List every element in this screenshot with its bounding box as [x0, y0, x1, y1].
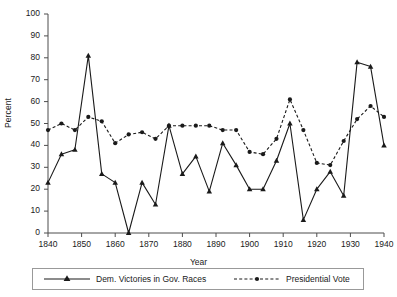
- x-tick-1840: 1840: [31, 239, 65, 249]
- x-tick-1930: 1930: [333, 239, 367, 249]
- x-tick-1850: 1850: [65, 239, 99, 249]
- y-tick-90: 90: [14, 30, 40, 40]
- data-point-1: [342, 139, 346, 143]
- data-point-1: [248, 150, 252, 154]
- data-point-0: [112, 180, 118, 185]
- data-point-0: [72, 147, 78, 152]
- data-point-1: [382, 115, 386, 119]
- data-point-0: [193, 153, 199, 158]
- data-point-1: [207, 124, 211, 128]
- y-tick-0: 0: [14, 227, 40, 237]
- x-axis-label: Year: [0, 257, 397, 267]
- series-line-0: [48, 56, 384, 233]
- x-tick-1880: 1880: [165, 239, 199, 249]
- data-point-1: [127, 132, 131, 136]
- legend-swatch-solid-triangle: [43, 272, 91, 286]
- x-tick-1940: 1940: [367, 239, 397, 249]
- chart-legend: Dem. Victories in Gov. Races Presidentia…: [32, 268, 364, 290]
- data-point-1: [315, 161, 319, 165]
- chart-figure: Percent Year 0102030405060708090100 1840…: [0, 0, 397, 297]
- y-tick-80: 80: [14, 52, 40, 62]
- data-point-1: [59, 121, 63, 125]
- data-point-1: [194, 124, 198, 128]
- legend-label-presidential-vote: Presidential Vote: [286, 274, 350, 284]
- y-tick-70: 70: [14, 74, 40, 84]
- data-point-1: [328, 163, 332, 167]
- data-point-1: [180, 124, 184, 128]
- data-point-0: [86, 53, 92, 58]
- x-tick-1860: 1860: [98, 239, 132, 249]
- data-point-0: [99, 171, 105, 176]
- data-point-0: [274, 158, 280, 163]
- x-tick-1920: 1920: [300, 239, 334, 249]
- x-tick-1910: 1910: [266, 239, 300, 249]
- x-tick-1900: 1900: [233, 239, 267, 249]
- y-tick-30: 30: [14, 161, 40, 171]
- legend-swatch-dashed-circle: [233, 272, 281, 286]
- y-tick-40: 40: [14, 139, 40, 149]
- data-point-1: [167, 124, 171, 128]
- y-tick-100: 100: [14, 8, 40, 18]
- x-tick-1870: 1870: [132, 239, 166, 249]
- data-point-0: [327, 169, 333, 174]
- data-point-0: [207, 188, 213, 193]
- y-tick-60: 60: [14, 96, 40, 106]
- data-point-1: [274, 137, 278, 141]
- data-point-1: [140, 130, 144, 134]
- legend-label-dem-victories: Dem. Victories in Gov. Races: [96, 274, 206, 284]
- data-point-1: [368, 104, 372, 108]
- data-point-1: [100, 119, 104, 123]
- data-point-1: [234, 128, 238, 132]
- data-point-0: [354, 59, 360, 64]
- y-tick-10: 10: [14, 205, 40, 215]
- data-point-1: [221, 128, 225, 132]
- data-point-1: [73, 128, 77, 132]
- data-point-1: [113, 141, 117, 145]
- series-line-1: [48, 99, 384, 165]
- data-point-0: [301, 217, 307, 222]
- data-point-1: [46, 128, 50, 132]
- x-tick-1890: 1890: [199, 239, 233, 249]
- data-point-0: [220, 140, 226, 145]
- legend-item-dem-victories: Dem. Victories in Gov. Races: [43, 269, 206, 289]
- data-point-1: [301, 128, 305, 132]
- data-point-0: [139, 180, 145, 185]
- data-point-1: [86, 115, 90, 119]
- y-tick-50: 50: [14, 118, 40, 128]
- data-point-0: [341, 193, 347, 198]
- data-point-1: [288, 97, 292, 101]
- y-tick-20: 20: [14, 183, 40, 193]
- y-axis-label: Percent: [3, 83, 13, 143]
- plot-area: [0, 0, 397, 297]
- data-point-0: [287, 121, 293, 126]
- legend-item-presidential-vote: Presidential Vote: [233, 269, 350, 289]
- data-point-1: [261, 152, 265, 156]
- data-point-1: [355, 117, 359, 121]
- data-point-1: [153, 137, 157, 141]
- data-point-0: [381, 143, 387, 148]
- data-point-0: [45, 180, 51, 185]
